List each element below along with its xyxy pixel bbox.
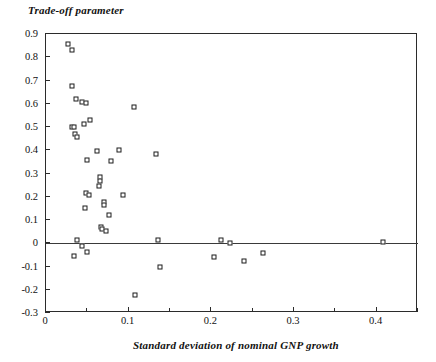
data-point [82,122,87,127]
y-tick-mark [45,242,50,243]
data-point [155,238,160,243]
x-tick-label: 0.1 [121,315,134,326]
plot-area [45,33,417,312]
data-point [74,237,79,242]
y-tick-label: 0.5 [0,121,38,132]
y-tick-label: 0.8 [0,51,38,62]
data-point [153,152,158,157]
data-point [85,157,90,162]
y-tick-mark [45,33,50,34]
y-tick-mark [45,126,50,127]
y-tick-label: 0.6 [0,97,38,108]
x-tick-mark-minor [334,308,335,312]
data-point [106,212,111,217]
x-tick-mark-minor [169,308,170,312]
x-tick-label: 0.3 [286,315,299,326]
data-point [133,292,138,297]
data-point [85,250,90,255]
y-tick-mark [45,80,50,81]
data-point [86,192,91,197]
data-point [132,104,137,109]
data-point [101,203,106,208]
data-point [66,42,71,47]
y-tick-label: 0.3 [0,167,38,178]
data-point [219,238,224,243]
data-point [242,258,247,263]
data-point [74,135,79,140]
y-tick-label: 0.4 [0,144,38,155]
data-point [103,229,108,234]
x-axis-title: Standard deviation of nominal GNP growth [133,339,339,351]
x-tick-mark [210,307,211,312]
y-tick-label: 0.7 [0,74,38,85]
data-point [381,240,386,245]
y-axis-title: Trade-off parameter [28,4,124,16]
y-tick-mark [45,266,50,267]
y-tick-mark [45,149,50,150]
y-tick-mark [45,312,50,313]
y-tick-label: 0.2 [0,190,38,201]
data-point [109,158,114,163]
data-point [120,192,125,197]
x-tick-mark [45,307,46,312]
x-tick-mark [293,307,294,312]
data-point [260,250,265,255]
data-point [80,244,85,249]
y-tick-label: -0.3 [0,307,38,318]
data-point [116,148,121,153]
y-tick-mark [45,289,50,290]
x-tick-label: 0.4 [369,315,382,326]
y-tick-mark [45,219,50,220]
x-tick-mark-minor [417,308,418,312]
data-point [70,47,75,52]
y-tick-mark [45,56,50,57]
y-tick-mark [45,103,50,104]
data-point [73,96,78,101]
data-point [96,183,101,188]
x-tick-label: 0 [42,315,47,326]
data-point [211,255,216,260]
data-point [158,264,163,269]
scatter-chart-figure: Trade-off parameter 0.90.80.70.60.50.40.… [0,0,436,362]
data-point [227,240,232,245]
y-tick-label: -0.1 [0,260,38,271]
data-point [69,84,74,89]
y-tick-label: -0.2 [0,283,38,294]
data-point [87,118,92,123]
data-point [72,125,77,130]
y-tick-mark [45,196,50,197]
data-point [83,101,88,106]
x-tick-mark-minor [86,308,87,312]
y-tick-label: 0 [0,237,38,248]
x-tick-mark-minor [252,308,253,312]
y-tick-label: 0.1 [0,214,38,225]
data-point [95,148,100,153]
x-tick-mark [376,307,377,312]
data-point [72,254,77,259]
x-tick-mark [128,307,129,312]
x-tick-label: 0.2 [204,315,217,326]
y-tick-mark [45,173,50,174]
y-tick-label: 0.9 [0,28,38,39]
data-point [82,206,87,211]
